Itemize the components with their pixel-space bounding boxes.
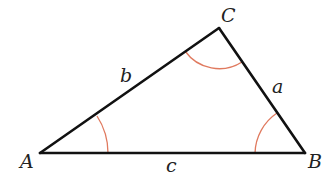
side-label-c: c bbox=[166, 154, 177, 176]
vertex-label-B: B bbox=[307, 150, 322, 172]
vertex-label-C: C bbox=[221, 4, 236, 26]
side-a bbox=[219, 28, 305, 153]
side-label-b: b bbox=[120, 64, 132, 86]
triangle-diagram: A B C a b c bbox=[0, 0, 331, 178]
side-label-a: a bbox=[272, 75, 283, 97]
angle-arc-B bbox=[255, 113, 277, 153]
triangle-svg: A B C a b c bbox=[0, 0, 331, 178]
angle-arc-C bbox=[185, 51, 242, 69]
angle-arc-A bbox=[97, 116, 108, 153]
vertex-label-A: A bbox=[18, 150, 34, 172]
side-b bbox=[40, 28, 219, 153]
